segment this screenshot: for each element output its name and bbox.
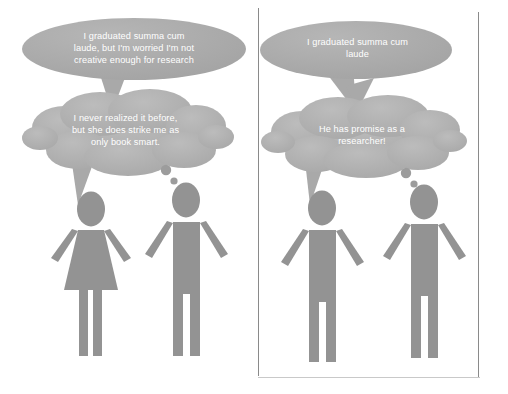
male-left-arm [145, 221, 173, 258]
comic-illustration: I graduated summa cum laude, but I'm wor… [0, 0, 508, 394]
left-arm [383, 223, 411, 260]
female-left-leg [79, 288, 88, 356]
left-arm [281, 229, 309, 266]
right-leg [428, 290, 438, 358]
torso [411, 224, 438, 296]
head [308, 191, 336, 226]
male-speaker-figure [281, 191, 364, 363]
speech-bubble-shape [260, 21, 452, 79]
left-leg [411, 290, 421, 358]
left-panel: I graduated summa cum laude, but I'm wor… [0, 0, 258, 394]
right-arm [438, 223, 466, 260]
right-border-line [478, 12, 479, 377]
bottom-border-line [258, 377, 480, 378]
male-torso [173, 222, 200, 294]
right-leg [326, 296, 336, 362]
thought-bubble-shape [22, 89, 234, 176]
left-panel-graphics [0, 0, 258, 394]
right-panel-graphics [258, 0, 508, 394]
head [410, 185, 438, 220]
male-listener-figure [383, 185, 466, 359]
thought-bubble-shape [261, 95, 467, 178]
female-figure [51, 192, 131, 357]
male-right-arm [200, 221, 228, 258]
male-head [172, 183, 200, 218]
female-right-leg [93, 288, 102, 356]
right-panel: I graduated summa cum laude He has promi… [258, 0, 508, 394]
torso [309, 230, 336, 302]
male-left-leg [173, 288, 183, 356]
speech-bubble-shape [22, 18, 246, 80]
left-leg [309, 296, 319, 362]
male-right-leg [190, 288, 200, 356]
male-figure [145, 183, 228, 357]
female-head [77, 192, 105, 227]
right-arm [336, 229, 364, 266]
panel-divider-line [258, 8, 259, 376]
